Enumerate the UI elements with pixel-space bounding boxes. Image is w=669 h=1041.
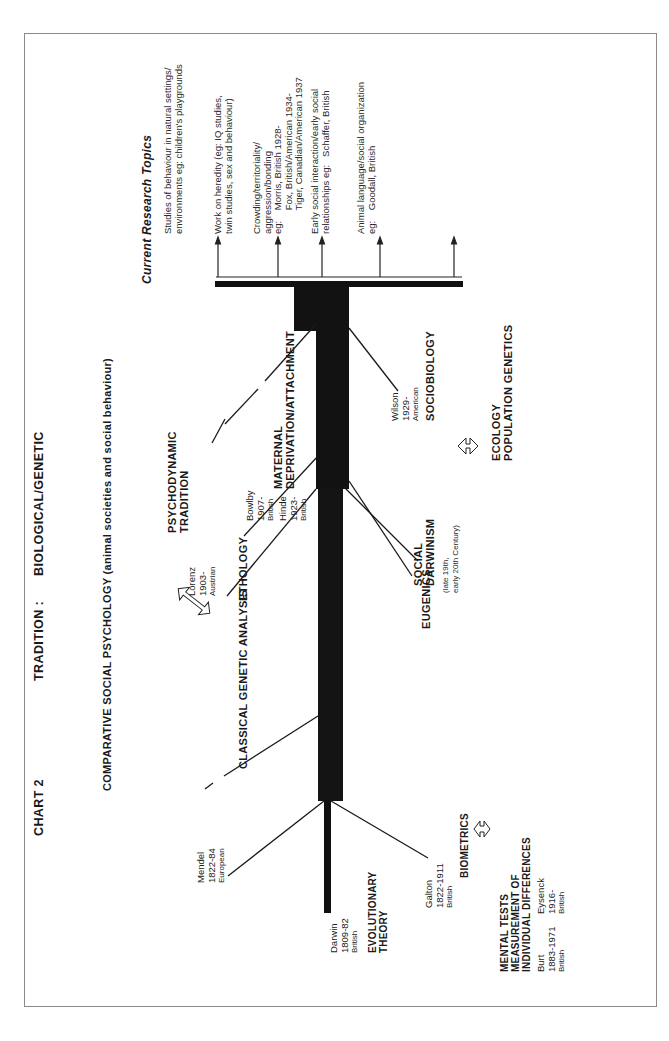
topic-item: Animal language/social organization eg: … [356, 82, 377, 234]
branch-social-darwinism: SOCIAL DARWINISM [412, 519, 436, 586]
branch-comparative-social-psychology: COMPARATIVE SOCIAL PSYCHOLOGY (animal so… [101, 358, 113, 791]
t-bar [215, 281, 463, 287]
person-eysenck: Eysenck 1916- British [536, 878, 568, 914]
person-lorenz: Lorenz 1903- Austrian [187, 567, 219, 596]
chart-label: CHART 2 [32, 779, 46, 836]
double-arrow-icon [458, 438, 478, 454]
trunk-top-block [294, 281, 318, 331]
person-mendel: Mendel 1822-84 European [196, 848, 228, 883]
branch-biometrics: BIOMETRICS [459, 813, 470, 878]
branch-classical-genetic-analysis: CLASSICAL GENETIC ANALYSIS [237, 589, 249, 769]
trunk-upper [316, 327, 349, 489]
topic-item: Studies of behaviour in natural settings… [163, 64, 184, 234]
person-darwin: Darwin 1809-82 British [329, 918, 361, 953]
social-darwinism-note: (late 19th, early 20th Century) [441, 525, 461, 593]
branch-mental-tests: MENTAL TESTS MEASUREMENT OF INDIVIDUAL D… [499, 837, 532, 972]
topic-item: Crowding/territoriality/ aggression/bond… [252, 77, 305, 234]
branch-ecology: ECOLOGY POPULATION GENETICS [490, 325, 514, 461]
branch-maternal-deprivation: MATERNAL DEPRIVATION/ATTACHMENT [272, 331, 296, 489]
chart-canvas: CHART 2 TRADITION : BIOLOGICAL/GENETIC C… [0, 0, 669, 1041]
topic-item: Work on heredity (eg: IQ studies, twin s… [213, 95, 234, 234]
topic-item: Early social interaction/early social re… [310, 89, 331, 234]
tradition-label: TRADITION : [32, 601, 46, 681]
research-topics-title: Current Research Topics [140, 135, 154, 284]
trunk-main [318, 485, 343, 801]
person-burt: Burt 1883-1971 British [536, 927, 568, 972]
person-wilson: Wilson 1929- American [390, 387, 422, 421]
person-galton: Galton 1822-1911 British [424, 863, 456, 908]
root-evolutionary-theory: EVOLUTIONARY THEORY [367, 872, 389, 953]
person-bowlby: Bowlby 1907- British [245, 490, 277, 521]
branch-psychodynamic-tradition: PSYCHODYNAMIC TRADITION [166, 431, 190, 533]
tradition-value: BIOLOGICAL/GENETIC [32, 431, 46, 576]
double-arrow-icon [474, 821, 490, 837]
trunk-root [324, 799, 331, 913]
branch-sociobiology: SOCIOBIOLOGY [424, 331, 436, 421]
topic-arrows [216, 237, 457, 277]
person-hinde: Hinde 1923- British [278, 496, 310, 521]
branch-ethology: ETHOLOGY [237, 537, 249, 601]
